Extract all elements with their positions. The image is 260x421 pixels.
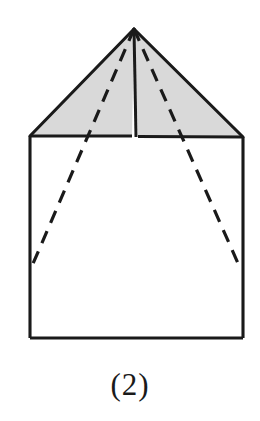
geometric-figure-svg — [0, 0, 260, 421]
prism-front-face — [30, 136, 243, 338]
pyramid-ridge-edge — [134, 29, 136, 137]
prism-top-edge-right — [138, 137, 243, 138]
figure-caption: (2) — [0, 362, 260, 408]
figure-container: (2) — [0, 0, 260, 421]
